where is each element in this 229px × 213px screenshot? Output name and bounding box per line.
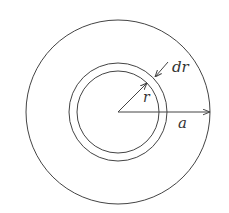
label-dr: dr: [172, 58, 190, 76]
label-a: a: [178, 114, 187, 132]
diagram-canvas: dr r a: [0, 0, 229, 213]
concentric-circles-diagram: dr r a: [0, 0, 229, 213]
dr-arrow: [155, 62, 168, 77]
label-r: r: [143, 89, 151, 105]
